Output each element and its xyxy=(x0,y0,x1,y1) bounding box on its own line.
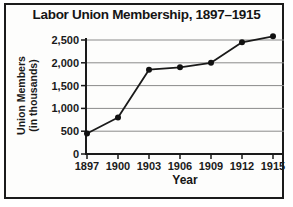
x-tick-label: 1912 xyxy=(230,160,254,172)
x-tick-label: 1900 xyxy=(106,160,130,172)
y-tick-label: 0 xyxy=(73,148,79,160)
y-tick-label: 2,000 xyxy=(51,57,79,69)
data-point xyxy=(270,33,276,39)
y-tick-label: 500 xyxy=(61,125,79,137)
x-tick-label: 1906 xyxy=(168,160,192,172)
y-tick-label: 1,500 xyxy=(51,80,79,92)
plot-area: 05001,0001,5002,0002,5001897190019031906… xyxy=(0,0,293,207)
data-point xyxy=(115,115,121,121)
data-line xyxy=(87,36,273,133)
data-point xyxy=(239,39,245,45)
data-point xyxy=(177,64,183,70)
x-tick-label: 1897 xyxy=(75,160,99,172)
data-point xyxy=(84,130,90,136)
x-tick-label: 1909 xyxy=(199,160,223,172)
data-point xyxy=(146,67,152,73)
x-tick-label: 1915 xyxy=(261,160,285,172)
x-axis-title: Year xyxy=(155,173,215,187)
x-tick-label: 1903 xyxy=(137,160,161,172)
data-point xyxy=(208,60,214,66)
y-tick-label: 1,000 xyxy=(51,102,79,114)
labor-union-membership-chart: Labor Union Membership, 1897–1915 Union … xyxy=(0,0,293,207)
y-tick-label: 2,500 xyxy=(51,34,79,46)
